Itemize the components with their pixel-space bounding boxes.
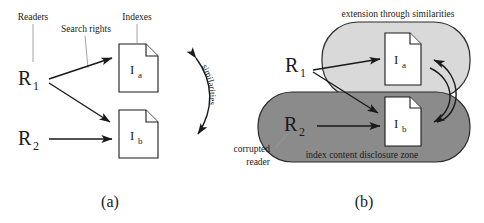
document-ib-b: I b [385, 97, 421, 146]
label-indexes: Indexes [122, 12, 152, 22]
caption-panel-a: (a) [101, 193, 119, 211]
arrow-r1-to-ia-a [49, 58, 112, 79]
label-similarities-text: similarities [200, 62, 218, 106]
panel-b: extension through similarities index con… [234, 9, 470, 211]
figure-root: Readers Search rights Indexes R 1 R 2 I [0, 0, 484, 223]
label-disclosure-zone: index content disclosure zone [306, 150, 419, 160]
label-corrupted-reader-line2: reader [246, 157, 271, 167]
document-ia-b: I a [385, 33, 421, 85]
node-reader-r1-a: R 1 [18, 67, 39, 93]
reader-r2-base-b: R [284, 113, 298, 135]
document-ib-subscript-b: b [402, 124, 407, 134]
reader-r1-base-b: R [285, 54, 299, 76]
label-extension-similarities: extension through similarities [342, 9, 455, 19]
document-ia-a: I a [119, 44, 158, 92]
document-ia-subscript: a [138, 70, 142, 80]
node-reader-r2-a: R 2 [18, 127, 39, 153]
diagram-canvas: Readers Search rights Indexes R 1 R 2 I [0, 0, 484, 223]
reader-r1-subscript: 1 [33, 79, 39, 93]
document-ib-subscript: b [138, 136, 143, 146]
caption-panel-b: (b) [355, 193, 374, 211]
reader-r1-base: R [18, 67, 32, 89]
arrow-r1-to-ib-a [49, 83, 110, 122]
reader-r2-subscript-b: 2 [299, 125, 305, 139]
panel-a: Readers Search rights Indexes R 1 R 2 I [18, 12, 218, 211]
label-similarities-a: similarities [200, 62, 218, 106]
label-corrupted-reader-line1: corrupted [234, 144, 271, 154]
reader-r2-base: R [18, 127, 32, 149]
document-ib-base: I [130, 128, 134, 143]
document-ib-a: I b [119, 110, 158, 158]
document-ib-fold-icon [146, 110, 158, 122]
label-search-rights: Search rights [61, 24, 111, 34]
reader-r1-subscript-b: 1 [300, 66, 306, 80]
reader-r2-subscript: 2 [33, 139, 39, 153]
document-ia-base: I [130, 62, 134, 77]
document-ib-base-b: I [394, 116, 398, 131]
document-ia-subscript-b: a [402, 60, 406, 70]
label-readers: Readers [18, 12, 49, 22]
node-reader-r1-b: R 1 [285, 54, 306, 80]
leader-line-search-rights [85, 36, 88, 68]
document-ia-base-b: I [394, 52, 398, 67]
